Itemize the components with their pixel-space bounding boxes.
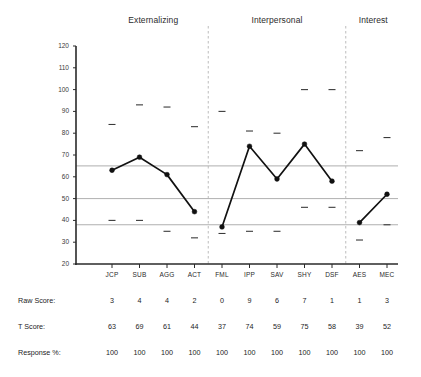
profile-line-segment-2 — [222, 144, 332, 227]
table-cell: 100 — [371, 348, 403, 357]
profile-chart-page: ExternalizingInterpersonalInterest 12011… — [0, 0, 421, 377]
data-point-marker — [302, 142, 307, 147]
profile-line-segment-1 — [112, 157, 195, 212]
data-point-marker — [220, 225, 225, 230]
table-row-label-1: T Score: — [18, 322, 45, 331]
y-axis-label-110: 110 — [47, 64, 69, 71]
y-axis-label-80: 80 — [47, 129, 69, 136]
y-axis-label-50: 50 — [47, 195, 69, 202]
table-row-label-0: Raw Score: — [18, 296, 55, 305]
y-axis-label-40: 40 — [47, 216, 69, 223]
y-axis-label-120: 120 — [47, 42, 69, 49]
y-axis-label-30: 30 — [47, 238, 69, 245]
y-axis-label-100: 100 — [47, 86, 69, 93]
data-point-marker — [165, 172, 170, 177]
data-point-marker — [110, 168, 115, 173]
scale-label-mec: MEC — [371, 271, 403, 278]
data-point-marker — [247, 144, 252, 149]
y-axis-label-20: 20 — [47, 260, 69, 267]
table-cell: 52 — [371, 322, 403, 331]
y-axis-label-60: 60 — [47, 173, 69, 180]
t-score-profile-plot — [0, 0, 421, 377]
table-cell: 3 — [371, 296, 403, 305]
data-point-marker — [192, 209, 197, 214]
data-point-marker — [275, 177, 280, 182]
data-point-marker — [385, 192, 390, 197]
data-point-marker — [357, 220, 362, 225]
y-axis-label-70: 70 — [47, 151, 69, 158]
data-point-marker — [330, 179, 335, 184]
data-point-marker — [137, 155, 142, 160]
y-axis-label-90: 90 — [47, 107, 69, 114]
table-row-label-2: Response %: — [18, 348, 61, 357]
